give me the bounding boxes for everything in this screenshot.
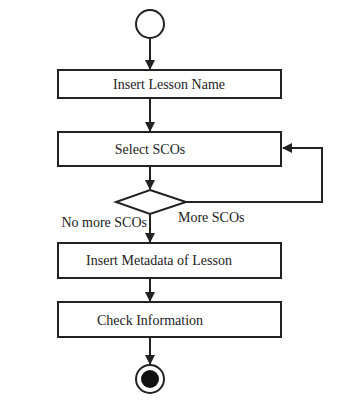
decision-node [116, 190, 186, 214]
edge-label-no-more: No more SCOs [61, 215, 147, 230]
action-insert-metadata: Insert Metadata of Lesson [58, 243, 281, 278]
action-select-scos: Select SCOs [58, 132, 281, 166]
start-node [136, 10, 164, 38]
activity-diagram: Insert Lesson Name Select SCOs More SCOs… [0, 0, 338, 411]
action-label: Insert Lesson Name [113, 77, 225, 92]
edge-label-more: More SCOs [178, 210, 245, 225]
action-check-information: Check Information [58, 302, 281, 337]
action-insert-lesson-name: Insert Lesson Name [58, 70, 281, 98]
final-node [136, 365, 164, 393]
action-label: Insert Metadata of Lesson [86, 253, 232, 268]
action-label: Check Information [97, 313, 203, 328]
action-label: Select SCOs [115, 142, 185, 157]
